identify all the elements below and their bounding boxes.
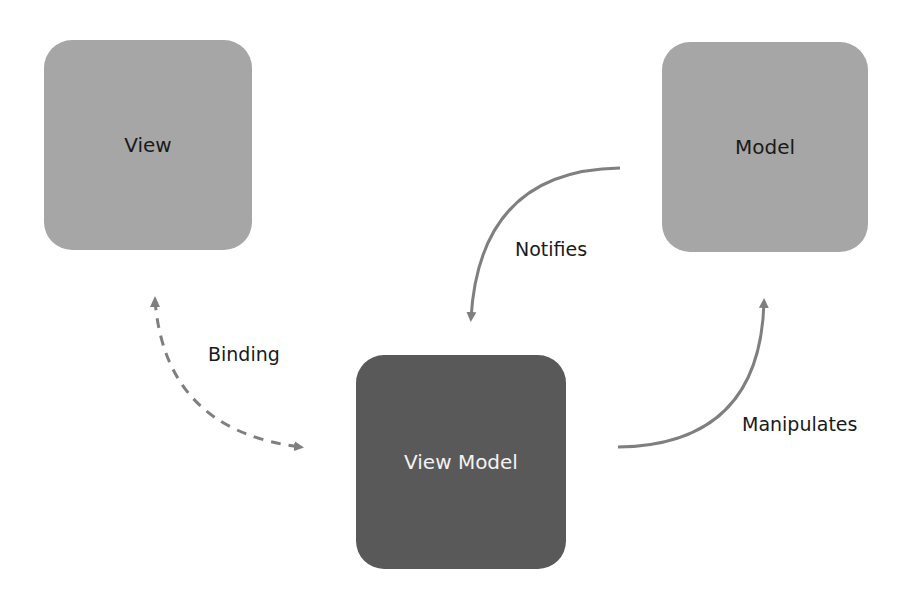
view-node-label: View [124,133,171,157]
view-model-node: View Model [356,355,566,569]
view-model-node-label: View Model [404,450,518,474]
model-node-label: Model [735,135,795,159]
binding-arrow-up-head [150,296,160,307]
model-node: Model [662,42,868,252]
manipulates-label: Manipulates [742,413,857,435]
view-node: View [44,40,252,250]
binding-arrow [155,300,300,447]
notifies-label: Notifies [515,238,587,260]
binding-label: Binding [208,343,280,365]
